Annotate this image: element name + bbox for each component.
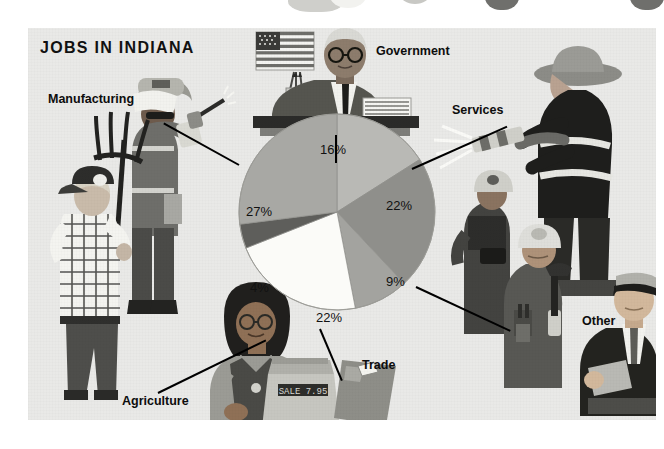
label-manufacturing: Manufacturing: [48, 92, 134, 106]
page-title: JOBS IN INDIANA: [40, 39, 195, 57]
poster-page: SALE 7.95: [0, 0, 664, 449]
pct-manufacturing: 27%: [246, 204, 272, 219]
label-services: Services: [452, 103, 503, 117]
cash-register-display-text: SALE 7.95: [279, 387, 328, 397]
pct-services: 22%: [386, 198, 412, 213]
manufacturing-worker-figure: [127, 78, 236, 314]
illustration-panel: SALE 7.95: [28, 28, 656, 420]
label-agriculture: Agriculture: [122, 394, 189, 408]
pct-agriculture: 4%: [250, 280, 269, 295]
pct-trade: 22%: [316, 310, 342, 325]
label-government: Government: [376, 44, 450, 58]
leader-line-government: [335, 135, 337, 163]
page-bleed-shape: [485, 0, 519, 10]
page-bleed-shape: [630, 0, 664, 10]
page-bleed-shape: [400, 0, 430, 4]
label-trade: Trade: [362, 358, 395, 372]
pct-other: 9%: [386, 274, 405, 289]
label-other: Other: [582, 314, 615, 328]
pct-government: 16%: [320, 142, 346, 157]
